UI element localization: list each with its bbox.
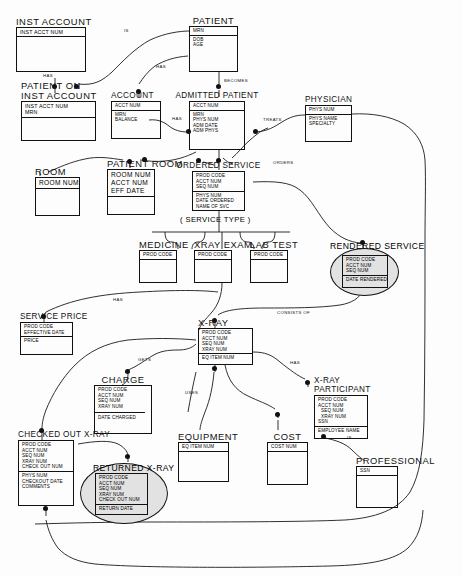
relationship-dot-ordered-service[interactable] [196,158,201,163]
entity-title-checked-out-xray: CHECKED OUT X-RAY [18,430,110,441]
entity-checked-out-xray[interactable]: CHECKED OUT X-RAY PROD CODE ACCT NUM SEQ… [18,440,74,506]
entity-patient[interactable]: PATIENT MRN DOB AGE [189,26,238,72]
relationship-dot-returned-xray[interactable] [125,454,130,459]
entity-title-xray-participant-line2: PARTICIPANT [314,385,371,396]
relationship-label-uses: USES [185,390,198,395]
entity-account[interactable]: ACCOUNT ACCT NUM MRN BALANCE [111,101,161,139]
relationship-dot-has-account[interactable] [136,89,141,94]
relationship-dot-becomes[interactable] [216,84,221,89]
relationship-dot-is-patient[interactable] [74,84,79,89]
entity-title-returned-xray: RETURNED X-RAY [93,463,174,473]
entity-physician[interactable]: PHYSICIAN PHYS NUM PHYS NAME SPECIALTY [305,105,352,142]
entity-xray-participant[interactable]: X-RAY PARTICIPANT PROD CODE ACCT NUM SEQ… [314,395,368,439]
entity-title-patient-on-inst-account-line2: INST ACCOUNT [21,91,97,102]
entity-title-medicine: MEDICINE [139,240,189,251]
relationship-dot-has-inst[interactable] [52,84,57,89]
relationship-label-orders: ORDERS [273,160,293,165]
attr-seq-num: SEQ NUM [196,184,242,190]
entity-admitted-patient[interactable]: ADMITTED PATIENT ACCT NUM MRN PHYS NUM A… [189,101,245,150]
entity-title-account: ACCOUNT [111,91,154,102]
attr-comments: COMMENTS [22,484,71,490]
attr-price: PRICE [24,338,70,344]
attr-specialty: SPECIALTY [309,121,349,127]
attr-eq-item-num: EQ ITEM NUM [182,444,226,450]
entity-ordered-service[interactable]: ORDERED SERVICE PROD CODE ACCT NUM SEQ N… [192,171,245,211]
relationship-dot-cost[interactable] [275,412,280,417]
relationship-label-treats: TREATS [263,117,282,122]
attr-balance: BALANCE [115,117,158,123]
attr-mrn: MRN [193,28,235,34]
attr-ssn: SSN [318,419,365,425]
attribute-divider [95,412,145,413]
relationship-label-has-admitted: HAS [172,116,182,121]
entity-inst-account[interactable]: INST ACCOUNT INST ACCT NUM [16,27,86,72]
relationship-dot-uses[interactable] [212,366,217,371]
entity-rendered-service[interactable]: PROD CODE ACCT NUM SEQ NUM DATE RENDERED [342,255,388,288]
entity-title-admitted-patient: ADMITTED PATIENT [175,91,258,102]
relationship-dot-treats[interactable] [253,129,258,134]
relationship-label-has-account: HAS [156,64,166,69]
attr-xray-num: XRAY NUM [202,347,250,353]
entity-title-equipment: EQUIPMENT [178,432,238,443]
attr-acct-num: ACCT NUM [115,103,158,109]
entity-charge[interactable]: CHARGE PROD CODE ACCT NUM SEQ NUM XRAY N… [94,385,152,434]
attr-check-out-num: CHECK OUT NUM [22,464,71,470]
er-diagram-canvas: INST ACCOUNT INST ACCT NUM PATIENT ON IN… [0,0,463,577]
attr-phys-num: PHYS NUM [309,107,349,113]
relationship-dot-has-participant[interactable] [305,380,310,385]
service-type-label: ( SERVICE TYPE ) [180,215,251,224]
attr-room-num: ROOM NUM [39,179,77,187]
entity-medicine[interactable]: MEDICINE PROD CODE [139,250,177,283]
relationship-dot-has-admitted[interactable] [186,129,191,134]
relationship-dot-rendered-service[interactable] [360,240,365,245]
attr-eq-item-num: EQ ITEM NUM [202,355,250,361]
attr-acct-num: ACCT NUM [111,179,152,187]
relationship-label-has-inst: HAS [43,73,53,78]
attr-prod-code: PROD CODE [143,252,174,258]
relationship-label-gets: GETS [138,357,151,362]
entity-professional[interactable]: PROFESSIONAL SSN [356,466,398,508]
attr-prod-code: PROD CODE [254,252,285,258]
attr-adm-phys: ADM PHYS [193,128,242,134]
relationship-dot-is-professional[interactable] [321,434,326,439]
entity-cost[interactable]: COST COST NUM [267,442,308,485]
entity-patient-room[interactable]: PATIENT ROOM ROOM NUM ACCT NUM EFF DATE [107,169,155,215]
attr-room-num: ROOM NUM [111,171,152,179]
entity-title-lab-test: LAB TEST [250,240,298,251]
entity-xray[interactable]: X-RAY PROD CODE ACCT NUM SEQ NUM XRAY NU… [198,328,253,365]
relationship-label-becomes: BECOMES [224,78,248,83]
relationship-dot-orders[interactable] [216,158,221,163]
entity-title-physician: PHYSICIAN [305,95,352,106]
entity-title-cost: COST [273,432,301,443]
attr-effective-date: EFFECTIVE DATE [24,330,70,336]
attr-prod-code: PROD CODE [198,252,229,258]
relationship-label-is-professional: IS [347,435,352,440]
entity-title-service-price: SERVICE PRICE [20,312,88,323]
entity-equipment[interactable]: EQUIPMENT EQ ITEM NUM [178,442,229,482]
attr-mrn: MRN [25,109,93,115]
attr-date-rendered: DATE RENDERED [346,277,385,283]
entity-xray-exam[interactable]: XRAY EXAM PROD CODE [194,250,232,283]
relationship-dot-gets[interactable] [125,369,130,374]
relationship-dot-room[interactable] [142,157,147,162]
relationship-label-has-price: HAS [113,297,123,302]
entity-title-charge: CHARGE [101,375,144,386]
relationship-dot-patient-room[interactable] [127,159,132,164]
attr-age: AGE [193,42,235,48]
attr-seq-num: SEQ NUM [346,268,385,274]
entity-service-price[interactable]: SERVICE PRICE PROD CODE EFFECTIVE DATE P… [20,322,73,355]
entity-patient-on-inst-account[interactable]: PATIENT ON INST ACCOUNT INST ACCT NUM MR… [21,101,96,141]
entity-lab-test[interactable]: LAB TEST PROD CODE [250,250,288,283]
entity-title-rendered-service: RENDERED SERVICE [330,241,425,251]
entity-title-inst-account: INST ACCOUNT [16,17,92,28]
relationship-dot-consists-of[interactable] [212,318,217,323]
attr-date-charged: DATE CHARGED [98,415,149,421]
relationship-dot-checkout-bus[interactable] [43,506,48,511]
entity-room[interactable]: ROOM ROOM NUM [35,177,80,216]
attr-return-date: RETURN DATE [99,506,145,512]
attr-cost-num: COST NUM [271,444,305,450]
entity-returned-xray[interactable]: PROD CODE ACCT NUM SEQ NUM XRAY NUM CHEC… [95,473,148,515]
relationship-dot-service-price[interactable] [41,314,46,319]
attr-employee-name: EMPLOYEE NAME [318,428,365,434]
relationship-dot-checked-out-xray[interactable] [39,428,44,433]
